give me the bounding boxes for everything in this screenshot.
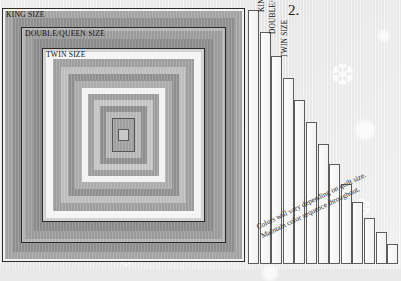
label-twin-size: TWIN SIZE: [45, 50, 87, 59]
bar-label-double-queen-size: DOUBLE/QUEEN SIZE: [268, 0, 277, 34]
bar-round-12: [376, 232, 387, 264]
bar-label-king-size: KING SIZE: [257, 0, 266, 12]
bar-round-8: [329, 164, 340, 264]
bar-round-10: [352, 202, 363, 264]
bar-round-5: [294, 100, 305, 264]
bar-round-4: [283, 78, 294, 264]
bar-round-13: [387, 244, 398, 264]
label-king-size: KING SIZE: [5, 10, 46, 19]
bar-round-11: [364, 218, 375, 264]
label-double-queen-size: DOUBLE/QUEEN SIZE: [24, 29, 106, 38]
quilt-top-view-diagram: KING SIZE DOUBLE/QUEEN SIZE TWIN SIZE: [2, 8, 245, 262]
bar-label-twin-size: TWIN SIZE: [280, 19, 289, 58]
center-highlight-block: [118, 129, 129, 141]
bokeh-dot: [262, 265, 278, 281]
